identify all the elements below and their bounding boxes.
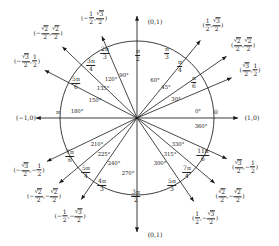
unit-circle-diagram: (1,0)(−1,0)(0,1)(0,1)0°0360°180°π90°270°… — [0, 0, 279, 246]
unit-circle-graphic — [0, 0, 279, 246]
spoke-225-ray — [59, 118, 137, 183]
spoke-150-ray — [45, 70, 137, 118]
spoke-240-ray — [81, 118, 137, 199]
spoke-60-ray — [137, 40, 200, 118]
spoke-315-ray — [137, 118, 215, 183]
spoke-30-ray — [137, 78, 232, 118]
spoke-135-ray — [62, 47, 137, 118]
spoke-120-ray — [102, 36, 137, 118]
